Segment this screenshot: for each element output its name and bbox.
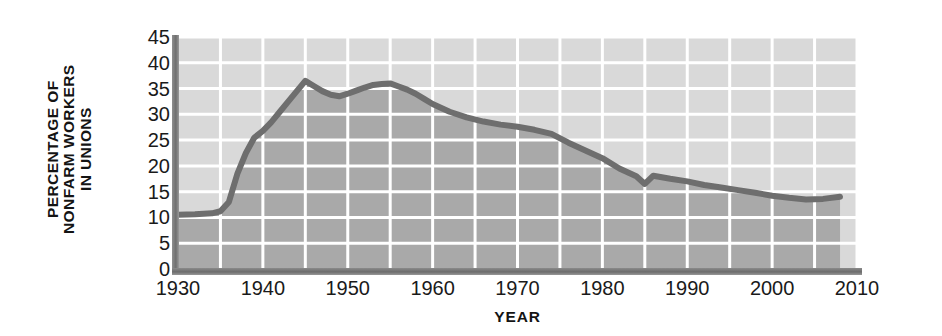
y-tick-label: 0 [112, 259, 170, 279]
y-tick-label: 5 [112, 233, 170, 253]
y-tick-label: 10 [112, 207, 170, 227]
plot-area [178, 37, 857, 269]
x-axis-tick-labels: 193019401950196019701980199020002010 [178, 278, 857, 304]
y-axis-title-line-3: IN UNIONS [78, 18, 94, 280]
x-tick-label: 1990 [665, 278, 710, 298]
x-axis-title: YEAR [178, 308, 857, 326]
y-tick-label: 25 [112, 130, 170, 150]
y-tick-label: 35 [112, 79, 170, 99]
y-tick-label: 30 [112, 104, 170, 124]
y-axis-spine [172, 35, 179, 275]
y-tick-label: 45 [112, 27, 170, 47]
x-tick-label: 1940 [241, 278, 286, 298]
y-tick-label: 20 [112, 156, 170, 176]
y-tick-label: 40 [112, 53, 170, 73]
x-tick-label: 1950 [326, 278, 371, 298]
y-axis-tick-labels: 051015202530354045 [112, 37, 170, 269]
y-axis-title-line-1: PERCENTAGE OF [45, 18, 61, 280]
x-tick-label: 1930 [156, 278, 201, 298]
x-tick-label: 1970 [495, 278, 540, 298]
x-tick-label: 1960 [410, 278, 455, 298]
y-tick-label: 15 [112, 182, 170, 202]
x-tick-label: 1980 [580, 278, 625, 298]
y-axis-title-line-2: NONFARM WORKERS [61, 18, 77, 280]
x-tick-label: 2010 [835, 278, 880, 298]
chart-canvas [178, 37, 857, 269]
y-axis-title: PERCENTAGE OF NONFARM WORKERS IN UNIONS [30, 18, 108, 280]
union-membership-chart: PERCENTAGE OF NONFARM WORKERS IN UNIONS … [0, 0, 942, 336]
x-tick-label: 2000 [750, 278, 795, 298]
x-axis-spine [172, 268, 862, 275]
